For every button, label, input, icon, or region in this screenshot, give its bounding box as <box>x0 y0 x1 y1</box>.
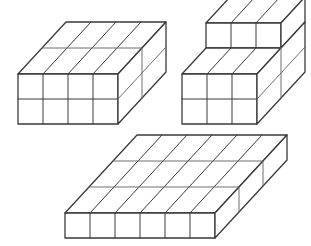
fig2-step-front-face <box>206 23 281 48</box>
cube-solids-diagram <box>0 0 311 246</box>
